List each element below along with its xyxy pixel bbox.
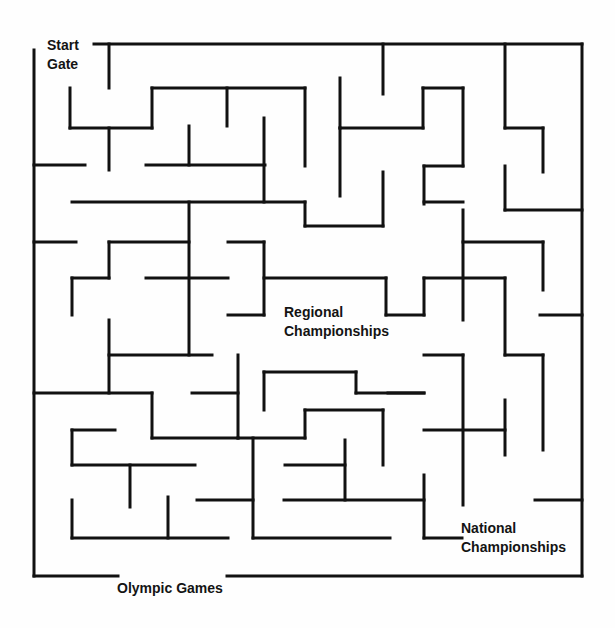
olympic-games-label: Olympic Games [117, 579, 223, 598]
start-gate-label: Start Gate [47, 36, 79, 74]
regional-championships-label: Regional Championships [284, 303, 389, 341]
national-championships-label: National Championships [461, 519, 566, 557]
maze-page: Start Gate Regional Championships Nation… [0, 0, 615, 628]
